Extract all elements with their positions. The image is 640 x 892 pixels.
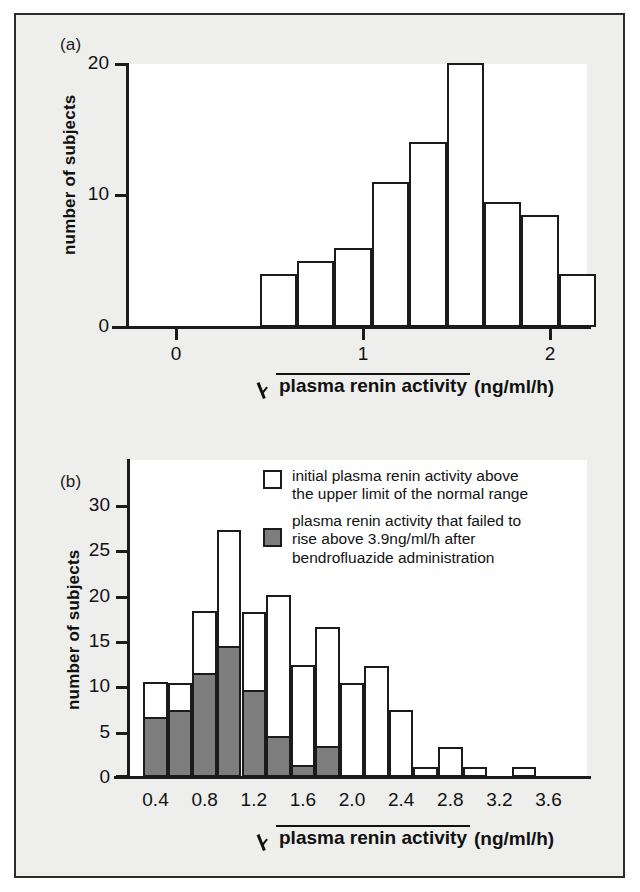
panel-b-x-tick-label-6: 2.8 bbox=[423, 789, 477, 811]
figure-frame: (a) number of subjects 20 10 0 0 1 2 pla… bbox=[14, 13, 625, 878]
panel-b-x-tick-label-8: 3.6 bbox=[522, 789, 576, 811]
panel-b-x-tick-label-3: 1.6 bbox=[276, 789, 330, 811]
panel-b-x-axis-title: plasma renin activity (ng/ml/h) bbox=[262, 825, 554, 851]
panel-b-x-tick-label-1: 0.8 bbox=[178, 789, 232, 811]
bar-a-4 bbox=[409, 142, 446, 327]
panel-b: (b) number of subjects 30 25 20 15 10 5 … bbox=[16, 415, 627, 880]
legend-label-open: initial plasma renin activity above the … bbox=[292, 467, 528, 503]
panel-a-bars bbox=[16, 15, 627, 415]
legend-swatch-open-icon bbox=[263, 470, 282, 489]
legend-item-open: initial plasma renin activity above the … bbox=[263, 467, 573, 503]
panel-b-x-tick-label-0: 0.4 bbox=[129, 789, 183, 811]
bar-a-0 bbox=[260, 274, 297, 327]
bar-a-3 bbox=[372, 182, 409, 327]
panel-b-legend: initial plasma renin activity above the … bbox=[263, 467, 573, 576]
bar-a-6 bbox=[484, 202, 521, 327]
legend-label-solid: plasma renin activity that failed to ris… bbox=[292, 512, 521, 566]
bar-a-7 bbox=[521, 215, 558, 327]
panel-b-x-title-radicand: plasma renin activity bbox=[276, 825, 470, 849]
panel-b-x-title-units: (ng/ml/h) bbox=[470, 825, 554, 850]
legend-swatch-solid-icon bbox=[263, 528, 282, 547]
square-root-icon bbox=[262, 825, 276, 851]
panel-a-x-title-radicand: plasma renin activity bbox=[276, 373, 470, 397]
square-root-icon bbox=[262, 373, 276, 399]
panel-b-x-tick-label-7: 3.2 bbox=[472, 789, 526, 811]
panel-b-x-tick-label-2: 1.2 bbox=[227, 789, 281, 811]
bar-a-8 bbox=[559, 274, 596, 327]
panel-a-x-title-units: (ng/ml/h) bbox=[470, 373, 554, 398]
panel-b-x-tick-label-5: 2.4 bbox=[374, 789, 428, 811]
panel-b-x-tick-label-4: 2.0 bbox=[325, 789, 379, 811]
panel-a: (a) number of subjects 20 10 0 0 1 2 pla… bbox=[16, 15, 627, 415]
bar-a-2 bbox=[334, 248, 371, 327]
legend-item-solid: plasma renin activity that failed to ris… bbox=[263, 512, 573, 566]
panel-a-x-axis-title: plasma renin activity (ng/ml/h) bbox=[262, 373, 554, 399]
bar-a-5 bbox=[447, 63, 484, 327]
bar-a-1 bbox=[297, 261, 334, 327]
